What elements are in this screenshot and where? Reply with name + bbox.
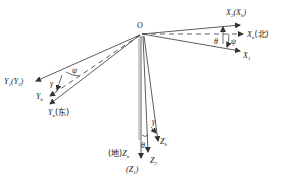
z-axes: γ θ xyxy=(139,36,158,158)
z2-axis xyxy=(143,36,148,152)
yb-label: Yb xyxy=(36,92,43,102)
gamma-y-label: γ xyxy=(50,79,54,88)
xn-label: Xn(北) xyxy=(246,30,269,40)
zn-label: (地)Zn xyxy=(108,148,130,159)
gamma-z-arc xyxy=(151,127,156,133)
origin-label: O xyxy=(137,21,143,30)
yn-label: Yn(东) xyxy=(48,107,69,118)
y-axes: ψ γ xyxy=(36,35,140,104)
psi-y-label: ψ xyxy=(72,66,78,75)
yb-axis-dashed xyxy=(50,35,140,96)
x2-axis xyxy=(142,25,240,34)
gamma-y-arc xyxy=(57,75,62,90)
y1-axis xyxy=(36,35,140,81)
x2-label: X2(Xb) xyxy=(225,8,246,18)
psi-x-label: ψ xyxy=(231,37,237,46)
z1-label: (Z1) xyxy=(126,165,139,175)
theta-z-label: θ xyxy=(141,141,145,150)
x1-axis xyxy=(142,34,240,51)
psi-x-arc xyxy=(227,34,229,47)
yn-axis xyxy=(50,35,140,104)
x-axes: θ ψ xyxy=(142,25,243,51)
z2-label: Z2 xyxy=(150,156,157,166)
x1-label: X1 xyxy=(242,51,250,61)
zb-label: Zb xyxy=(160,137,167,147)
zb-axis xyxy=(144,36,158,141)
theta-x-label: θ xyxy=(214,37,218,46)
origin-point: O xyxy=(137,21,143,30)
coordinate-frame-diagram: O θ ψ X2(Xb) Xn(北) X1 ψ γ Y1(Y2) Yb Yn(东… xyxy=(0,0,294,181)
y1-label: Y1(Y2) xyxy=(4,77,24,87)
